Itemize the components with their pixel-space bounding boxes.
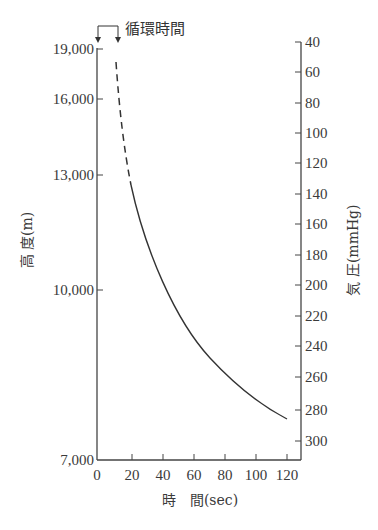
svg-text:300: 300	[305, 433, 328, 449]
svg-text:10,000: 10,000	[53, 282, 94, 298]
svg-text:60: 60	[305, 64, 320, 80]
svg-text:120: 120	[276, 467, 299, 483]
svg-text:13,000: 13,000	[53, 167, 94, 183]
right-axis-title: 気 圧(mmHg)	[345, 204, 361, 295]
arrow-down-icon	[115, 37, 121, 43]
svg-text:80: 80	[305, 95, 320, 111]
left-tick-labels: 19,000 16,000 13,000 10,000 7,000	[53, 41, 94, 468]
altitude-time-chart: 循環時間 19,000 16,000 13,000 10,000 7,000 0…	[0, 0, 378, 530]
right-ticks	[295, 42, 301, 441]
x-axis-title: 時 間(sec)	[162, 492, 238, 508]
bottom-tick-labels: 0 20 40 60 80 100 120	[93, 467, 298, 483]
svg-text:240: 240	[305, 338, 328, 354]
svg-text:40: 40	[305, 34, 320, 50]
left-axis-title: 高 度(m)	[19, 212, 35, 269]
svg-text:140: 140	[305, 186, 328, 202]
svg-text:120: 120	[305, 155, 328, 171]
svg-text:16,000: 16,000	[53, 91, 94, 107]
axes	[97, 42, 301, 460]
svg-text:280: 280	[305, 402, 328, 418]
annotation-label: 循環時間	[125, 20, 185, 38]
svg-text:220: 220	[305, 308, 328, 324]
svg-text:20: 20	[125, 467, 140, 483]
dashed-curve	[116, 62, 131, 185]
solid-curve	[131, 185, 287, 419]
svg-text:19,000: 19,000	[53, 41, 94, 57]
bottom-ticks	[132, 454, 287, 460]
svg-text:180: 180	[305, 247, 328, 263]
svg-text:7,000: 7,000	[60, 452, 94, 468]
circulation-time-bracket	[98, 26, 118, 38]
left-ticks	[97, 49, 103, 290]
right-tick-labels: 40 60 80 100 120 140 160 180 200 220 240…	[305, 34, 328, 449]
svg-text:0: 0	[93, 467, 101, 483]
svg-text:100: 100	[245, 467, 268, 483]
svg-text:200: 200	[305, 277, 328, 293]
arrow-down-icon	[95, 37, 101, 43]
svg-text:40: 40	[156, 467, 171, 483]
svg-text:80: 80	[218, 467, 233, 483]
svg-text:160: 160	[305, 216, 328, 232]
svg-text:260: 260	[305, 369, 328, 385]
svg-text:60: 60	[187, 467, 202, 483]
svg-text:100: 100	[305, 125, 328, 141]
